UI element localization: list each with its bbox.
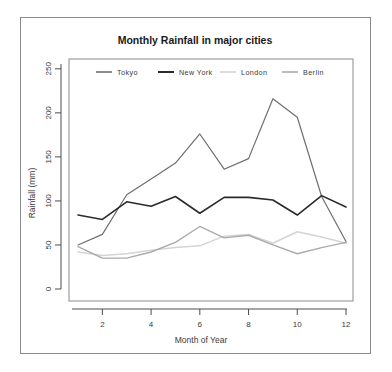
x-tick-label: 8: [246, 320, 251, 329]
figure-frame: Monthly Rainfall in major cities Rainfal…: [20, 17, 371, 354]
x-axis-ticks: 24681012: [100, 309, 351, 329]
y-tick-label: 150: [44, 150, 53, 164]
y-axis: 050100150200250: [44, 62, 61, 292]
data-series-group: [78, 99, 346, 258]
series-line-new-york: [78, 196, 346, 220]
y-tick-label: 0: [44, 286, 53, 291]
x-axis: 24681012: [72, 309, 351, 329]
y-tick-label: 200: [44, 106, 53, 120]
y-axis-title: Rainfall (mm): [27, 168, 37, 219]
x-axis-title: Month of Year: [175, 335, 228, 345]
x-tick-label: 2: [100, 320, 105, 329]
y-tick-label: 100: [44, 194, 53, 208]
chart-legend: TokyoNew YorkLondonBerlin: [96, 68, 324, 77]
legend-label-london: London: [241, 68, 267, 77]
x-tick-label: 4: [149, 320, 154, 329]
x-tick-label: 10: [293, 320, 302, 329]
rainfall-line-chart: Monthly Rainfall in major cities Rainfal…: [21, 18, 370, 353]
y-tick-label: 250: [44, 62, 53, 76]
x-tick-label: 6: [198, 320, 203, 329]
legend-label-tokyo: Tokyo: [117, 68, 138, 77]
series-line-berlin: [78, 226, 346, 258]
legend-label-berlin: Berlin: [303, 68, 324, 77]
plot-area-border: [69, 59, 353, 301]
page-title: Monthly Rainfall in major cities: [118, 34, 273, 46]
series-line-tokyo: [78, 99, 346, 245]
y-tick-label: 50: [44, 240, 53, 249]
y-axis-ticks: 050100150200250: [44, 62, 61, 292]
x-tick-label: 12: [342, 320, 351, 329]
legend-label-new-york: New York: [179, 68, 213, 77]
